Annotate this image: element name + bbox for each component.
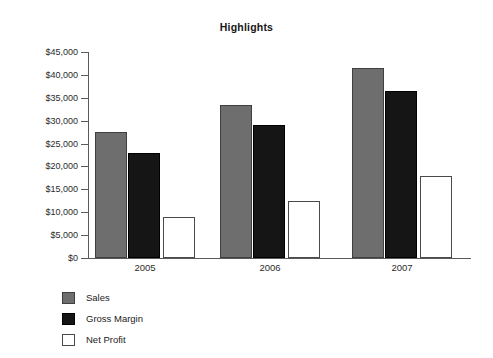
legend-label-gross-margin: Gross Margin [86, 313, 143, 324]
legend-item-sales: Sales [62, 287, 143, 308]
bar-gross-margin-2005 [128, 153, 160, 258]
y-axis-tick [81, 189, 88, 190]
y-axis-tick-label: $5,000 [8, 231, 78, 240]
legend-swatch-sales [62, 292, 75, 304]
y-axis-tick [81, 75, 88, 76]
y-axis-tick-label: $10,000 [8, 208, 78, 217]
bar-net-profit-2006 [288, 201, 320, 258]
x-axis-label-2005: 2005 [105, 262, 185, 273]
bar-net-profit-2007 [420, 176, 452, 258]
y-axis-tick [81, 166, 88, 167]
bar-sales-2006 [220, 105, 252, 258]
legend-swatch-gross-margin [62, 313, 75, 325]
y-axis-tick-label: $45,000 [8, 48, 78, 57]
y-axis-tick-label: $25,000 [8, 140, 78, 149]
bar-gross-margin-2007 [385, 91, 417, 258]
y-axis-tick [81, 258, 88, 259]
y-axis-tick-label: $30,000 [8, 117, 78, 126]
y-axis-tick [81, 144, 88, 145]
x-axis-label-2006: 2006 [230, 262, 310, 273]
bar-gross-margin-2006 [253, 125, 285, 258]
y-axis-tick [81, 121, 88, 122]
y-axis-tick-label: $35,000 [8, 94, 78, 103]
x-axis-line [88, 258, 471, 259]
x-axis-label-2007: 2007 [362, 262, 442, 273]
y-axis-tick-label: $0 [8, 254, 78, 263]
chart-legend: SalesGross MarginNet Profit [62, 287, 143, 350]
legend-item-gross-margin: Gross Margin [62, 308, 143, 329]
y-axis-tick-label: $15,000 [8, 185, 78, 194]
y-axis-tick [81, 52, 88, 53]
chart-container: Highlights $0$5,000$10,000$15,000$20,000… [0, 0, 493, 358]
bar-sales-2005 [95, 132, 127, 258]
y-axis-tick [81, 212, 88, 213]
y-axis-line [88, 52, 89, 259]
legend-swatch-net-profit [62, 334, 75, 346]
legend-label-net-profit: Net Profit [86, 334, 126, 345]
y-axis-tick-label: $40,000 [8, 71, 78, 80]
y-axis-tick [81, 98, 88, 99]
y-axis-tick-label: $20,000 [8, 162, 78, 171]
legend-item-net-profit: Net Profit [62, 329, 143, 350]
legend-label-sales: Sales [86, 292, 110, 303]
y-axis-tick [81, 235, 88, 236]
bar-sales-2007 [352, 68, 384, 258]
bar-net-profit-2005 [163, 217, 195, 258]
